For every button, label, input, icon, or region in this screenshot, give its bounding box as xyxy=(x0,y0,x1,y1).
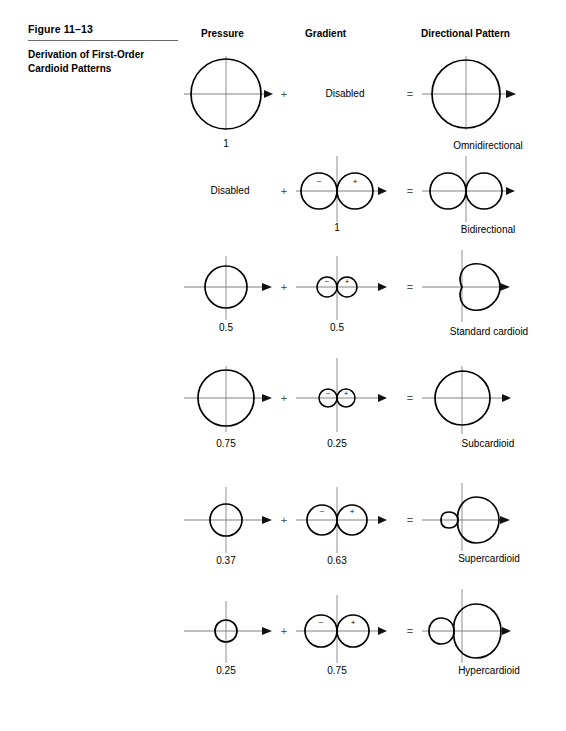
gradient-value: 0.25 xyxy=(312,438,362,449)
plus-operator: + xyxy=(272,88,296,100)
gradient-value: 1 xyxy=(314,222,360,233)
pattern-cell: Subcardioid xyxy=(418,370,558,442)
positive-sign: + xyxy=(350,507,355,516)
pattern-plot xyxy=(418,260,558,330)
gradient-value: 0.5 xyxy=(314,322,360,333)
negative-sign: – xyxy=(320,506,325,515)
pattern-cell: Supercardioid xyxy=(418,495,558,565)
pressure-cell: 0.25 xyxy=(180,605,280,677)
pattern-name: Subcardioid xyxy=(428,438,548,449)
positive-sign: + xyxy=(353,177,358,186)
positive-sign: + xyxy=(345,278,349,285)
pressure-cell: 0.5 xyxy=(180,260,280,330)
pressure-value: 0.5 xyxy=(204,322,248,333)
pressure-cell: 1 xyxy=(180,58,280,138)
pressure-value: 0.75 xyxy=(202,438,250,449)
diagram-area: 1 + Disabled = Omnidirectional Disabled xyxy=(0,0,566,731)
gradient-plot: – + xyxy=(292,260,402,330)
gradient-cell: – + 0.75 xyxy=(292,605,402,677)
positive-sign: + xyxy=(344,390,348,397)
gradient-value: 0.63 xyxy=(312,555,362,566)
gradient-value: Disabled xyxy=(310,88,380,99)
negative-sign: – xyxy=(325,277,329,284)
pressure-cell: 0.75 xyxy=(180,370,280,442)
positive-sign: + xyxy=(351,618,356,627)
negative-sign: – xyxy=(317,176,322,185)
gradient-cell: – + 0.25 xyxy=(292,370,402,442)
pressure-value: Disabled xyxy=(190,185,270,196)
pressure-value: 1 xyxy=(204,138,248,149)
gradient-cell: – + 0.5 xyxy=(292,260,402,330)
pattern-name: Standard cardioid xyxy=(424,326,554,337)
pattern-plot xyxy=(418,370,558,442)
pattern-cell: Bidirectional xyxy=(418,160,558,238)
gradient-plot: – + xyxy=(292,370,402,442)
pattern-name: Omnidirectional xyxy=(428,140,548,151)
pattern-cell: Standard cardioid xyxy=(418,260,558,330)
pattern-name: Hypercardioid xyxy=(422,665,556,676)
negative-sign: – xyxy=(326,389,330,396)
pattern-name: Bidirectional xyxy=(428,224,548,235)
pressure-plot xyxy=(180,260,280,330)
gradient-cell: – + 0.63 xyxy=(292,495,402,565)
gradient-value: 0.75 xyxy=(312,665,362,676)
pressure-value: 0.37 xyxy=(202,555,250,566)
pattern-cell: Hypercardioid xyxy=(418,605,558,677)
pressure-cell: 0.37 xyxy=(180,495,280,565)
negative-sign: – xyxy=(319,617,324,626)
pattern-name: Supercardioid xyxy=(422,553,556,564)
pressure-plot xyxy=(180,58,280,138)
pattern-plot xyxy=(418,58,558,138)
gradient-cell: – + 1 xyxy=(292,160,402,238)
pattern-cell: Omnidirectional xyxy=(418,58,558,138)
pressure-plot xyxy=(180,370,280,442)
pressure-value: 0.25 xyxy=(202,665,250,676)
